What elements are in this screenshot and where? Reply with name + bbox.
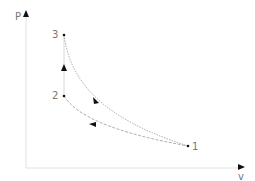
x-axis-label: v <box>238 171 244 181</box>
process-3-1 <box>64 35 188 146</box>
y-axis-arrow-icon <box>23 10 29 17</box>
x-axis-arrow-icon <box>238 164 245 170</box>
point-2 <box>63 95 66 98</box>
pv-diagram: P v 3 2 1 <box>0 0 255 181</box>
point-2-label: 2 <box>52 90 58 101</box>
point-3 <box>63 34 66 37</box>
arrow-down-right-icon <box>93 97 99 104</box>
y-axis-label: P <box>15 11 21 22</box>
arrow-up-icon <box>61 64 67 71</box>
process-1-2 <box>64 96 188 146</box>
point-1-label: 1 <box>192 141 198 152</box>
point-1 <box>187 145 190 148</box>
arrow-left-icon <box>89 122 96 127</box>
point-3-label: 3 <box>52 29 58 40</box>
